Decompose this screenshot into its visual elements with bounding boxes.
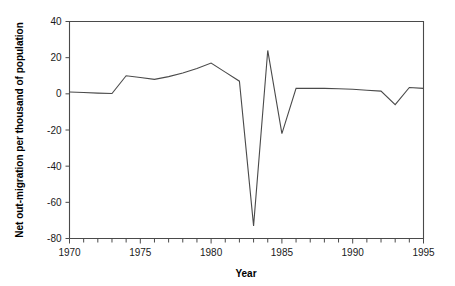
y-axis-title: Net out-migration per thousand of popula… (14, 22, 25, 238)
y-tick-label: -40 (47, 161, 62, 172)
y-tick-label: -60 (47, 197, 62, 208)
y-tick-label: 0 (56, 88, 62, 99)
x-axis-title: Year (235, 268, 256, 279)
x-tick-label: 1990 (342, 247, 365, 258)
x-tick-label: 1980 (200, 247, 223, 258)
data-line-net-out-migration (70, 50, 424, 225)
chart-container: 40200-20-40-60-80 1970197519801985199019… (0, 0, 455, 286)
x-tick-label: 1995 (412, 247, 435, 258)
y-tick-label: 40 (50, 16, 62, 27)
x-tick-label: 1985 (271, 247, 294, 258)
plot-frame (70, 22, 424, 239)
line-chart: 40200-20-40-60-80 1970197519801985199019… (0, 0, 455, 286)
y-axis-ticks: 40200-20-40-60-80 (47, 16, 69, 244)
x-tick-label: 1970 (58, 247, 81, 258)
x-axis-ticks: 197019751980198519901995 (58, 239, 435, 258)
y-tick-label: -20 (47, 125, 62, 136)
axis-frame-path (70, 22, 424, 239)
x-tick-label: 1975 (129, 247, 152, 258)
y-tick-label: 20 (50, 52, 62, 63)
y-tick-label: -80 (47, 233, 62, 244)
data-series-group (70, 50, 424, 225)
